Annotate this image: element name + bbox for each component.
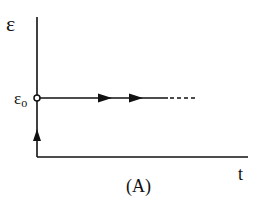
right-arrow-icon xyxy=(98,94,112,103)
epsilon0-symbol: ε xyxy=(14,89,21,108)
epsilon0-subscript: o xyxy=(21,96,27,110)
y-axis-label: ε xyxy=(6,11,15,36)
right-arrow-icon xyxy=(129,94,143,103)
strain-time-diagram: ε εo t (A) xyxy=(0,0,265,208)
caption: (A) xyxy=(126,176,151,197)
up-arrow-icon xyxy=(33,129,41,141)
epsilon0-label: εo xyxy=(14,89,27,110)
x-axis-label: t xyxy=(238,164,243,184)
initial-point-marker xyxy=(34,95,40,101)
